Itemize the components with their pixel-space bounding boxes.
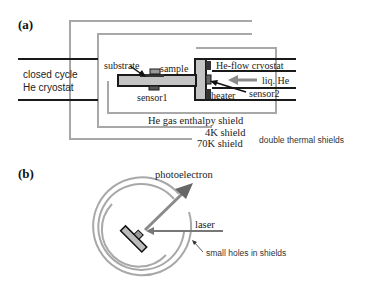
closed-cycle-label-line1: closed cycle — [23, 69, 78, 80]
sensor1-label: sensor1 — [137, 92, 168, 103]
middle-shield-ring — [98, 184, 184, 270]
sample-holder — [121, 222, 151, 252]
4k-shield-label: 4K shield — [205, 127, 246, 138]
small-holes-label: small holes in shields — [206, 248, 286, 258]
liq-he-arrowhead-icon — [228, 75, 238, 85]
sensor2-label: sensor2 — [249, 88, 280, 99]
sample-block — [150, 69, 160, 74]
heater-label: heater — [211, 90, 236, 101]
sample-label: sample — [160, 63, 189, 74]
panel-a-label: (a) — [18, 17, 33, 32]
cryostat-diagram: (a) closed cycle He cryostat substrate s… — [0, 0, 366, 288]
he-flow-cryostat-label: He-flow cryostat — [216, 60, 284, 71]
substrate-label: substrate — [104, 60, 140, 71]
closed-cycle-label-line2: He cryostat — [23, 82, 74, 93]
sensor1-block — [149, 86, 159, 90]
sensor2-block — [206, 75, 211, 84]
he-gas-shield-label: He gas enthalpy shield — [148, 115, 244, 126]
photoelectron-label: photoelectron — [155, 169, 213, 180]
photoelectron-arrow — [145, 194, 182, 230]
panel-b-label: (b) — [18, 166, 34, 181]
outer-shield-ring — [93, 177, 191, 275]
laser-label: laser — [195, 219, 215, 230]
70k-shield-label: 70K shield — [197, 138, 244, 149]
heater-block-top — [206, 61, 211, 70]
double-shields-label: double thermal shields — [259, 135, 344, 145]
liq-he-label: liq. He — [262, 75, 290, 86]
